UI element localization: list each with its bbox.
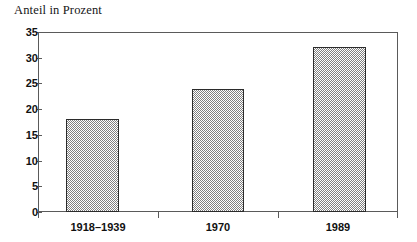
- bars-layer: [0, 0, 417, 242]
- x-tick-mark: [278, 212, 279, 218]
- bar-chart-figure: Anteil in Prozent 35 30 25 20 15 10 5 0 …: [0, 0, 417, 242]
- x-tick-label-1970: 1970: [158, 222, 278, 233]
- bar-1970: [192, 89, 244, 212]
- x-tick-label-1918-1939: 1918–1939: [38, 222, 158, 233]
- x-tick-mark: [397, 212, 398, 218]
- x-tick-mark: [158, 212, 159, 218]
- x-tick-mark: [38, 212, 39, 218]
- x-tick-label-1989: 1989: [278, 222, 398, 233]
- bar-1989: [313, 47, 366, 212]
- bar-1918-1939: [66, 119, 119, 212]
